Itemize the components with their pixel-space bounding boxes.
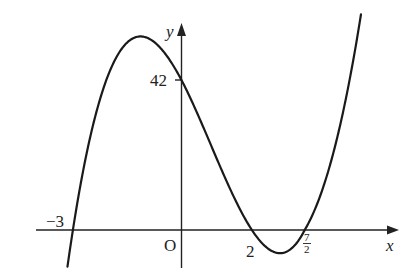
y-axis-arrow-icon xyxy=(177,23,186,36)
origin-label: O xyxy=(164,236,176,255)
x-intercept-label-7-2-den: 2 xyxy=(304,243,310,255)
y-intercept-label: 42 xyxy=(150,71,167,90)
x-intercept-label-2: 2 xyxy=(246,242,255,261)
cubic-curve xyxy=(67,14,361,266)
x-intercept-label-7-2-num: 7 xyxy=(304,231,310,243)
x-intercept-label-neg3: −3 xyxy=(46,212,64,231)
x-axis-arrow-icon xyxy=(387,226,399,235)
x-axis-label: x xyxy=(385,236,394,255)
cubic-graph: y x O 42 −3 2 7 2 xyxy=(0,0,420,277)
y-axis-label: y xyxy=(164,22,174,41)
